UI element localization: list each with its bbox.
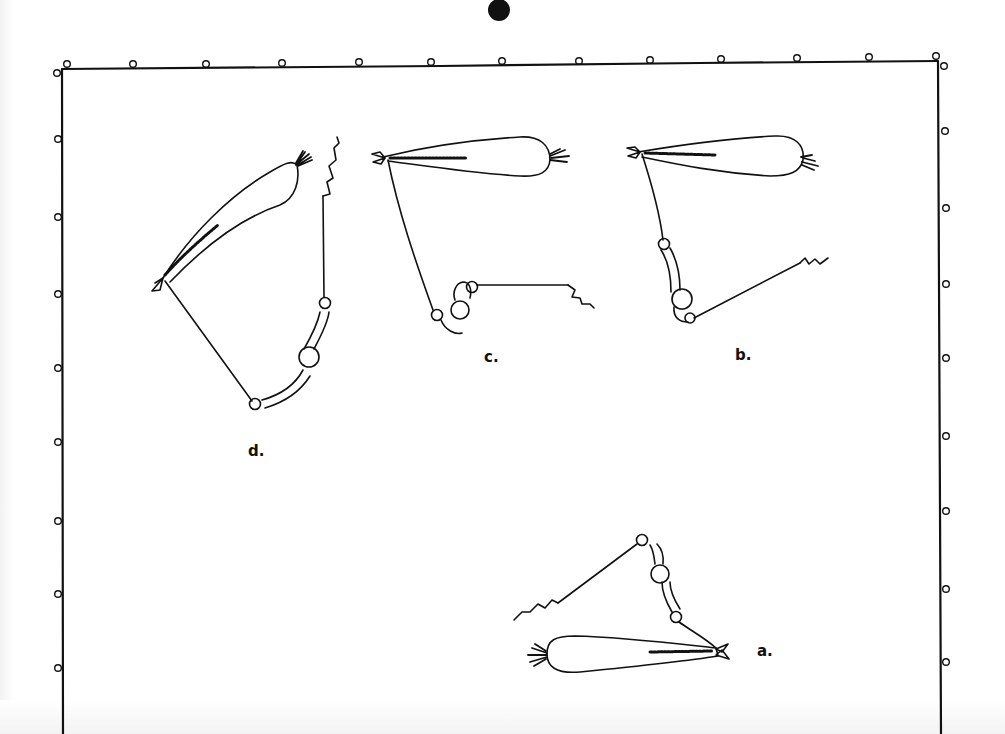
panel-b-drawing	[627, 136, 828, 323]
border-frame	[62, 61, 941, 734]
illustration-page: d. c. b. a.	[0, 0, 1005, 734]
panel-c-drawing	[372, 137, 594, 334]
panel-a-drawing	[514, 535, 729, 673]
top-edge-markers	[54, 53, 948, 77]
panel-label-b: b.	[735, 348, 751, 363]
right-edge-markers	[942, 128, 950, 666]
punch-hole-icon	[488, 0, 510, 21]
diagram-canvas	[0, 0, 1005, 734]
left-edge-markers	[55, 136, 62, 672]
panel-label-a: a.	[757, 644, 773, 659]
panel-label-d: d.	[248, 444, 264, 459]
panel-d-drawing	[152, 137, 339, 410]
panel-label-c: c.	[484, 350, 499, 365]
